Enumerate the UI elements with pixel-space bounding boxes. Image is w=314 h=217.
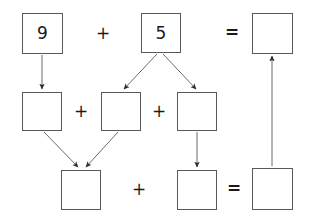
arrow-5-to-mid-part-3	[163, 54, 196, 89]
box-bottom-part-2[interactable]	[177, 170, 217, 210]
operator-equals-bottom: =	[227, 180, 241, 197]
box-bottom-sum[interactable]	[252, 168, 293, 210]
box-mid-part-2[interactable]	[101, 92, 141, 131]
arrow-5-to-mid-part-2	[124, 54, 157, 89]
box-bottom-part-1[interactable]	[61, 170, 101, 210]
diagram-canvas: 9 5 + = + + + =	[0, 0, 314, 217]
operator-plus-top: +	[96, 25, 110, 42]
arrow-mid-part-2-to-bottom	[86, 132, 118, 167]
box-mid-part-3[interactable]	[177, 92, 217, 131]
box-top-sum[interactable]	[252, 13, 293, 54]
box-top-addend-2[interactable]: 5	[141, 13, 181, 53]
operator-plus-middle-left: +	[74, 103, 88, 120]
arrow-mid-part-1-to-bottom	[44, 132, 78, 167]
box-top-addend-1[interactable]: 9	[22, 13, 63, 54]
operator-plus-middle-right: +	[152, 103, 166, 120]
operator-plus-bottom: +	[132, 181, 146, 198]
box-mid-part-1[interactable]	[22, 92, 62, 131]
operator-equals-top: =	[225, 24, 239, 41]
